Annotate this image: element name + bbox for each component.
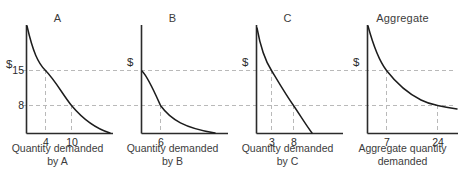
- panel-b-caption: Quantity demanded by B: [115, 142, 230, 168]
- panel-a-ytick-15: 15: [4, 64, 24, 76]
- panel-b-caption-line2: by B: [115, 155, 230, 168]
- panel-b: B $ 6 Quantity demanded by B: [115, 0, 230, 179]
- aggregate-demand-figure: A $ 15 8 4 10 Quantity demanded by A B: [0, 0, 460, 179]
- panel-a: A $ 15 8 4 10 Quantity demanded by A: [0, 0, 115, 179]
- panel-aggregate-currency-symbol: $: [353, 56, 359, 68]
- panel-aggregate-caption-line2: demanded: [345, 155, 460, 168]
- panel-a-caption-line1: Quantity demanded: [0, 142, 115, 155]
- panel-a-caption: Quantity demanded by A: [0, 142, 115, 168]
- panel-aggregate-caption-line1: Aggregate quantity: [345, 142, 460, 155]
- panel-aggregate: Aggregate $ 7 24 Aggregate quantity dema…: [345, 0, 460, 179]
- panel-c-caption-line1: Quantity demanded: [230, 142, 345, 155]
- panel-b-currency-symbol: $: [127, 56, 133, 68]
- panel-c-caption: Quantity demanded by C: [230, 142, 345, 168]
- panel-c-currency-symbol: $: [242, 56, 248, 68]
- panel-c: C $ 3 8 Quantity demanded by C: [230, 0, 345, 179]
- panel-aggregate-caption: Aggregate quantity demanded: [345, 142, 460, 168]
- panel-a-caption-line2: by A: [0, 155, 115, 168]
- panel-b-caption-line1: Quantity demanded: [115, 142, 230, 155]
- panel-c-caption-line2: by C: [230, 155, 345, 168]
- panel-a-ytick-8: 8: [4, 99, 24, 111]
